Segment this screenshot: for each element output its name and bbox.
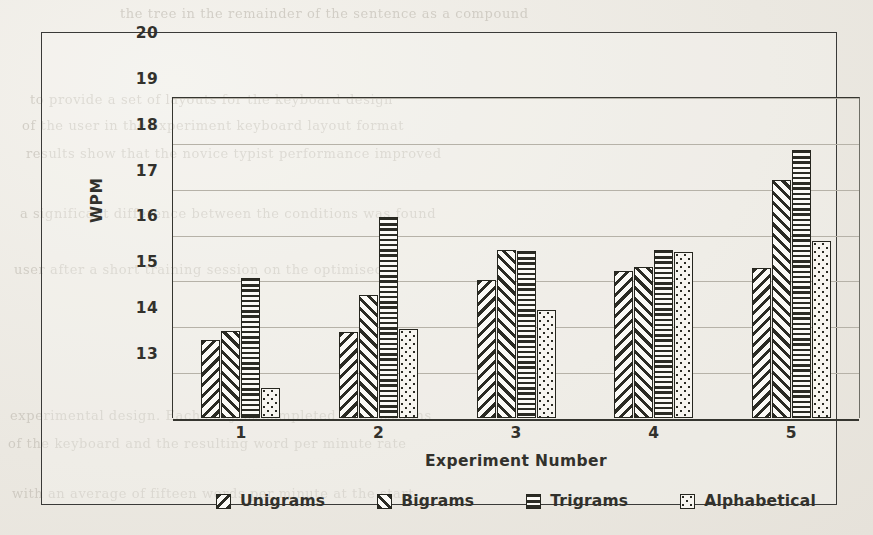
y-tick-label-18: 18 [136,116,158,134]
bar-trigrams-exp5[interactable] [792,150,811,418]
y-axis-title: WPM [88,178,106,223]
bar-unigrams-exp2[interactable] [339,332,358,418]
bar-alphabetical-exp3[interactable] [537,310,556,418]
bleed-through-line-1: the tree in the remainder of the sentenc… [120,6,529,21]
bar-alphabetical-exp5[interactable] [812,241,831,418]
bar-alphabetical-exp2[interactable] [399,329,418,418]
x-axis-title: Experiment Number [172,452,860,470]
bar-unigrams-exp5[interactable] [752,268,771,418]
y-tick-label-15: 15 [136,253,158,271]
y-tick-label-20: 20 [136,24,158,42]
bar-unigrams-exp4[interactable] [614,271,633,418]
y-tick-label-17: 17 [136,162,158,180]
legend-label-trigrams: Trigrams [550,492,628,510]
legend-label-bigrams: Bigrams [401,492,474,510]
gridline-13 [173,419,859,421]
bar-group-4 [614,97,693,418]
y-axis-tick-labels: 1314151617181920 [42,33,172,354]
bar-group-5 [752,97,831,418]
bar-bigrams-exp2[interactable] [359,295,378,418]
y-tick-label-13: 13 [136,345,158,363]
bar-bigrams-exp5[interactable] [772,180,791,418]
x-tick-label-4: 4 [648,424,659,442]
bar-bigrams-exp4[interactable] [634,267,653,418]
bar-group-3 [477,97,556,418]
legend-label-unigrams: Unigrams [240,492,325,510]
legend-item-unigrams[interactable]: Unigrams [216,492,325,510]
dotted-swatch [680,494,695,509]
bar-unigrams-exp1[interactable] [201,340,220,418]
x-tick-label-5: 5 [786,424,797,442]
bar-alphabetical-exp1[interactable] [261,388,280,418]
x-tick-label-3: 3 [511,424,522,442]
bar-alphabetical-exp4[interactable] [674,252,693,418]
bar-bigrams-exp1[interactable] [221,331,240,418]
bar-trigrams-exp4[interactable] [654,250,673,418]
bar-bigrams-exp3[interactable] [497,250,516,418]
diagonal-down-stripes-swatch [216,494,231,509]
bar-trigrams-exp3[interactable] [517,251,536,418]
y-tick-label-16: 16 [136,207,158,225]
chart-frame: 1314151617181920 WPM 12345 Experiment Nu… [41,32,837,505]
legend-item-alphabetical[interactable]: Alphabetical [680,492,816,510]
bar-trigrams-exp2[interactable] [379,217,398,418]
bar-group-1 [201,97,280,418]
bar-unigrams-exp3[interactable] [477,280,496,418]
legend-item-trigrams[interactable]: Trigrams [526,492,628,510]
horizontal-stripes-swatch [526,494,541,509]
legend-item-bigrams[interactable]: Bigrams [377,492,474,510]
bar-group-2 [339,97,418,418]
x-tick-label-2: 2 [373,424,384,442]
legend-label-alphabetical: Alphabetical [704,492,816,510]
diagonal-up-stripes-swatch [377,494,392,509]
x-tick-label-1: 1 [235,424,246,442]
bar-trigrams-exp1[interactable] [241,278,260,418]
y-tick-label-14: 14 [136,299,158,317]
y-tick-label-19: 19 [136,70,158,88]
chart-legend: UnigramsBigramsTrigramsAlphabetical [172,492,860,510]
x-axis-tick-labels: 12345 [172,424,860,450]
bar-series-container [172,97,860,418]
